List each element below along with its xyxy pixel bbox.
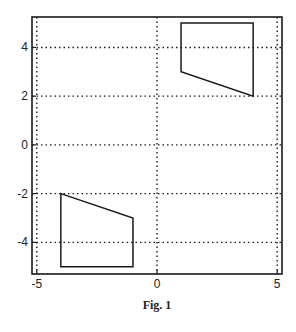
y-tick-label: 2 — [21, 89, 28, 103]
x-tick-label: -5 — [31, 277, 42, 291]
y-tick-label: -2 — [17, 187, 28, 201]
x-tick-label: 5 — [274, 277, 281, 291]
figure-caption: Fig. 1 — [143, 298, 172, 312]
chart: -505 -4-2024 Fig. 1 — [0, 0, 296, 332]
polygon-upper — [181, 23, 253, 96]
x-axis-ticks: -505 — [31, 270, 280, 291]
polygon-lower — [61, 194, 133, 267]
x-tick-label: 0 — [154, 277, 161, 291]
y-tick-label: 0 — [21, 138, 28, 152]
polygons — [61, 23, 253, 267]
y-tick-label: -4 — [17, 235, 28, 249]
grid-lines — [32, 17, 282, 274]
y-axis-ticks: -4-2024 — [17, 40, 36, 249]
y-tick-label: 4 — [21, 40, 28, 54]
